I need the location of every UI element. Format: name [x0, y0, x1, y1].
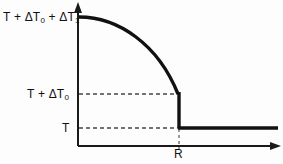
y-tick-top-plus-2: +	[49, 10, 56, 24]
x-axis-arrowhead	[270, 142, 281, 150]
y-tick-mid-delta-t: ΔT	[49, 87, 65, 101]
temperature-profile-chart: T + ΔT0 + ΔT1 T + ΔT0 T R	[0, 0, 283, 164]
y-tick-top-plus-1: +	[14, 10, 21, 24]
y-tick-top-sub-0: 0	[40, 16, 45, 25]
y-tick-top-delta-t1: ΔT	[59, 10, 75, 24]
y-tick-label-top: T + ΔT0 + ΔT1	[3, 11, 80, 23]
y-tick-label-mid: T + ΔT0	[27, 88, 69, 100]
y-tick-mid-plus: +	[38, 87, 45, 101]
decay-curve	[79, 17, 178, 94]
y-tick-mid-t: T	[27, 87, 34, 101]
y-tick-top-t: T	[3, 10, 10, 24]
y-tick-label-base: T	[62, 122, 70, 134]
x-tick-label-r: R	[174, 148, 183, 160]
y-tick-top-sub-1: 1	[75, 16, 80, 25]
y-tick-mid-sub-0: 0	[64, 93, 69, 102]
y-tick-top-delta-t0: ΔT	[25, 10, 41, 24]
